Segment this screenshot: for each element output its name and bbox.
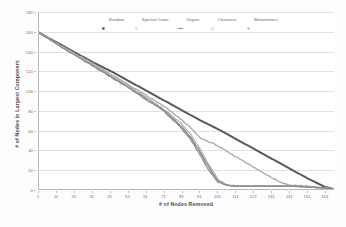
y-tick-label: 160 — [26, 29, 33, 34]
x-tick-label: 21 — [72, 194, 77, 199]
x-tick-label: 61 — [143, 194, 148, 199]
series-marker — [162, 108, 163, 109]
x-tick-mark — [164, 191, 165, 193]
series-marker — [210, 167, 211, 168]
x-tick-label: 131 — [268, 194, 275, 199]
x-tick-label: 121 — [250, 194, 257, 199]
x-tick-label: 51 — [125, 194, 130, 199]
series-marker — [162, 105, 163, 106]
series-marker — [199, 137, 200, 138]
series-line-random — [39, 33, 334, 189]
y-tick-mark — [34, 131, 36, 132]
series-marker — [146, 97, 147, 98]
x-tick-mark — [325, 191, 326, 193]
y-tick-label: 0 — [31, 188, 33, 193]
x-tick-mark — [92, 191, 93, 193]
legend-label: Spectral Count — [142, 17, 168, 22]
legend-label: Random — [109, 17, 124, 22]
series-marker — [275, 179, 276, 180]
y-tick-label: 140 — [26, 49, 33, 54]
x-tick-mark — [182, 191, 183, 193]
legend-label: Closeness — [218, 17, 237, 22]
series-marker — [81, 59, 82, 60]
series-marker — [92, 66, 93, 67]
chart-legend: RandomSpectral CountDegreeClosenessBetwe… — [100, 17, 278, 22]
series-marker — [189, 126, 190, 127]
series-marker — [242, 186, 243, 187]
series-marker — [269, 186, 270, 187]
legend-item-degree[interactable]: Degree — [177, 17, 199, 22]
series-marker — [242, 160, 243, 161]
series-marker — [285, 186, 286, 187]
series-marker — [167, 114, 168, 115]
series-marker — [162, 110, 163, 111]
series-marker — [173, 113, 174, 114]
series-marker — [151, 103, 152, 104]
series-marker — [226, 185, 227, 186]
legend-item-closeness[interactable]: Closeness — [209, 17, 237, 22]
circle-marker-icon — [209, 17, 216, 22]
series-marker — [291, 185, 292, 186]
x-tick-mark — [128, 191, 129, 193]
y-tick-mark — [34, 52, 36, 53]
series-marker — [130, 86, 131, 87]
series-marker — [210, 142, 211, 143]
legend-item-spectral-count[interactable]: Spectral Count — [133, 17, 168, 22]
series-marker — [258, 186, 259, 187]
series-marker — [232, 154, 233, 155]
series-marker — [269, 176, 270, 177]
series-marker — [146, 99, 147, 100]
x-tick-mark — [307, 191, 308, 193]
series-marker — [296, 186, 297, 187]
series-marker — [60, 46, 61, 47]
series-marker — [173, 118, 174, 119]
series-marker — [317, 187, 318, 188]
series-marker — [189, 135, 190, 136]
y-tick-label: 180 — [26, 10, 33, 15]
y-tick-mark — [34, 32, 36, 33]
y-tick-label: 120 — [26, 69, 33, 74]
series-marker — [189, 132, 190, 133]
series-marker — [183, 126, 184, 127]
series-marker — [189, 137, 190, 138]
legend-item-random[interactable]: Random — [100, 17, 124, 22]
series-marker — [44, 36, 45, 37]
x-tick-label: 161 — [322, 194, 329, 199]
x-axis-tick-labels: 1112131415161718191101111121131141151161 — [38, 191, 334, 201]
series-marker — [291, 186, 292, 187]
x-tick-label: 151 — [304, 194, 311, 199]
series-marker — [146, 95, 147, 96]
series-marker — [124, 85, 125, 86]
series-marker — [114, 79, 115, 80]
series-marker — [71, 53, 72, 54]
y-tick-label: 100 — [26, 89, 33, 94]
series-marker — [264, 186, 265, 187]
x-tick-mark — [74, 191, 75, 193]
series-marker — [216, 176, 217, 177]
series-lines — [39, 12, 334, 189]
series-marker — [92, 64, 93, 65]
series-marker — [178, 117, 179, 118]
series-marker — [221, 183, 222, 184]
series-marker — [87, 61, 88, 62]
series-marker — [140, 92, 141, 93]
series-marker — [199, 151, 200, 152]
x-tick-label: 111 — [232, 194, 238, 199]
series-marker — [167, 112, 168, 113]
series-marker — [151, 98, 152, 99]
series-marker — [199, 148, 200, 149]
series-marker — [103, 70, 104, 71]
x-tick-mark — [271, 191, 272, 193]
series-marker — [194, 140, 195, 141]
series-marker — [258, 170, 259, 171]
x-tick-mark — [217, 191, 218, 193]
x-tick-label: 101 — [214, 194, 221, 199]
x-tick-mark — [235, 191, 236, 193]
series-marker — [205, 140, 206, 141]
series-marker — [130, 88, 131, 89]
legend-item-betweenness[interactable]: Betweenness — [245, 17, 278, 22]
square-marker-icon — [100, 17, 107, 22]
series-marker — [210, 169, 211, 170]
series-marker — [199, 154, 200, 155]
y-axis-title: # of Nodes in Largest Component — [14, 29, 20, 179]
